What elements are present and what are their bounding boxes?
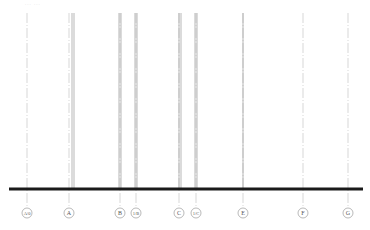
- axis-label: 1/B: [133, 211, 140, 216]
- axis-label: B: [118, 210, 122, 216]
- axis-label: A: [67, 210, 72, 216]
- wall-lines: [72, 13, 243, 189]
- axis-bubbles: A/0AB1/BC1/CEFG: [22, 208, 353, 218]
- axis-label: E: [241, 210, 245, 216]
- axis-label: C: [177, 210, 181, 216]
- axis-label: 1/C: [193, 211, 200, 216]
- axis-label: G: [346, 210, 351, 216]
- axis-label: A/0: [24, 211, 32, 216]
- drawing-canvas: A/0AB1/BC1/CEFG: [0, 0, 370, 230]
- title-fragment: ... ...: [25, 1, 41, 6]
- grid-axes: [27, 13, 348, 207]
